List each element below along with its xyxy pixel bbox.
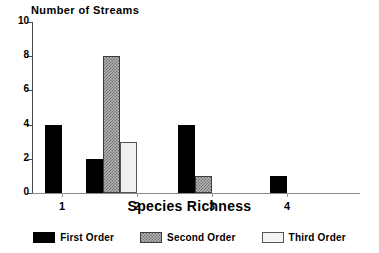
y-tick-label: 10	[18, 15, 29, 26]
bar-first-order-2	[86, 159, 103, 193]
y-axis-line	[32, 22, 33, 193]
chart-title: Number of Streams	[31, 4, 139, 16]
x-tick-mark-4	[287, 193, 288, 197]
legend-swatch-icon	[140, 232, 162, 243]
bar-third-order-2	[120, 142, 137, 193]
plot-area: 0246810 1234	[32, 22, 360, 193]
legend-label: First Order	[60, 232, 114, 243]
y-tick-label: 2	[23, 152, 29, 163]
x-tick-mark-2	[137, 193, 138, 197]
bar-second-order-3	[195, 176, 212, 193]
x-axis-label: Species Richness	[0, 198, 379, 214]
x-axis-line	[32, 193, 360, 194]
bar-first-order-3	[178, 125, 195, 193]
legend-label: Third Order	[289, 232, 346, 243]
legend-swatch-icon	[33, 232, 55, 243]
chart-figure: Number of Streams 0246810 1234 Species R…	[0, 0, 379, 253]
x-tick-mark-1	[62, 193, 63, 197]
y-tick-label: 6	[23, 83, 29, 94]
bar-second-order-2	[103, 56, 120, 193]
bar-first-order-1	[45, 125, 62, 193]
y-tick-label: 8	[23, 49, 29, 60]
y-tick-label: 0	[23, 186, 29, 197]
legend-item-second-order[interactable]: Second Order	[140, 232, 236, 243]
legend-item-third-order[interactable]: Third Order	[262, 232, 346, 243]
y-tick-label: 4	[23, 118, 29, 129]
legend-item-first-order[interactable]: First Order	[33, 232, 114, 243]
chart-legend: First OrderSecond OrderThird Order	[0, 232, 379, 243]
legend-swatch-icon	[262, 232, 284, 243]
bar-first-order-4	[270, 176, 287, 193]
x-tick-mark-3	[212, 193, 213, 197]
legend-label: Second Order	[167, 232, 236, 243]
